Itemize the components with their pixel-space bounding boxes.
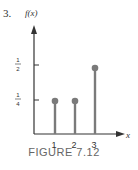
- svg-text:1: 1: [16, 92, 20, 98]
- figure-caption: FIGURE 7.12: [0, 146, 128, 158]
- stem-plot: f(x) x 1 2 1 4 1 2 3: [0, 0, 138, 170]
- y-axis-arrow-icon: [31, 25, 37, 34]
- y-axis-label: f(x): [25, 8, 38, 18]
- x-axis-arrow-icon: [116, 131, 125, 137]
- stem-x3: [92, 65, 99, 134]
- y-tick-quarter: 1 4: [15, 92, 39, 107]
- svg-text:4: 4: [16, 101, 20, 107]
- stem-x1: [52, 98, 59, 134]
- x-axis-label: x: [125, 130, 130, 140]
- svg-text:2: 2: [16, 66, 20, 72]
- svg-text:1: 1: [16, 57, 20, 63]
- stem-x2: [72, 98, 79, 134]
- y-tick-half: 1 2: [15, 57, 39, 72]
